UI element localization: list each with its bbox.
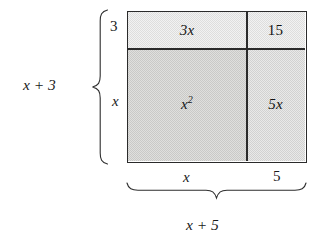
horizontal-divider [128, 48, 305, 50]
row-label-bottom: x [112, 94, 119, 109]
cell-bottom-right-label: 5x [268, 97, 283, 112]
column-label-left: x [183, 170, 190, 185]
left-sum-label: x + 3 [23, 77, 56, 93]
cell-bottom-left-exponent: 2 [188, 94, 193, 105]
left-brace-path [93, 10, 108, 164]
cell-top-left: 3x [128, 12, 246, 48]
cell-bottom-left-base: x [181, 96, 188, 112]
row-label-top: 3 [110, 19, 118, 34]
bottom-sum-label: x + 5 [186, 217, 219, 233]
vertical-divider [246, 12, 248, 161]
bottom-brace-path [127, 183, 306, 198]
cell-bottom-right: 5x [246, 48, 305, 161]
left-brace [88, 8, 110, 166]
area-grid: 3x 15 x2 5x [127, 11, 307, 163]
cell-top-right: 15 [246, 12, 305, 48]
column-label-right: 5 [273, 169, 281, 184]
bottom-brace [124, 181, 310, 205]
cell-top-right-label: 15 [268, 23, 283, 38]
cell-top-left-label: 3x [180, 23, 195, 38]
cell-bottom-left: x2 [128, 48, 246, 161]
area-model-diagram: x + 3 3 x 3x 15 x2 5x x 5 x + 5 [0, 0, 320, 243]
cell-bottom-left-label: x2 [181, 97, 193, 112]
